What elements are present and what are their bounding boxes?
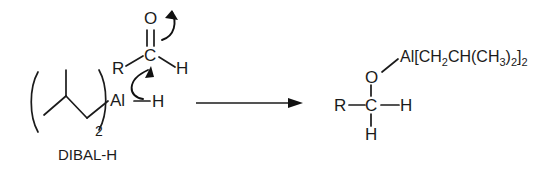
aldehyde-hydrogen-label: H [176, 59, 188, 78]
dibal-h-name-label: DIBAL-H [58, 146, 117, 163]
carbonyl-to-hydrogen-bond [159, 57, 175, 67]
product-hydrogen-right-label: H [400, 96, 412, 115]
aluminum-label: Al [110, 91, 125, 110]
pi-arrow-head [165, 10, 178, 20]
reaction-arrow-head [288, 98, 303, 108]
reaction-scheme: 2 Al H DIBAL-H O C R H [0, 0, 544, 175]
dibal-h-structure: 2 Al H DIBAL-H [31, 70, 164, 163]
formula-part-1: Al[CH [400, 48, 442, 65]
ch2-bond [66, 96, 87, 118]
product-structure: R C H H O Al[CH2CH(CH3)2]2 [334, 48, 528, 144]
product-r-group-label: R [334, 96, 346, 115]
aldehyde-r-group-label: R [112, 59, 124, 78]
hydride-to-carbonyl-carbon-arrow [132, 70, 148, 99]
left-parenthesis-glyph [31, 72, 38, 132]
methyl-bond-2 [44, 96, 66, 115]
product-aluminum-group-formula: Al[CH2CH(CH3)2]2 [400, 48, 528, 68]
repeat-subscript: 2 [95, 123, 103, 139]
carbonyl-carbon-label: C [144, 46, 156, 65]
carbonyl-oxygen-label: O [144, 9, 157, 28]
product-o-to-al-bond [382, 59, 398, 72]
hydride-hydrogen-label: H [152, 92, 164, 111]
hydride-arrow-head [145, 66, 154, 78]
formula-part-2: CH(CH [448, 48, 500, 65]
r-to-carbonyl-bond [126, 56, 143, 66]
product-hydrogen-bottom-label: H [365, 125, 377, 144]
product-oxygen-label: O [365, 68, 378, 87]
formula-sub-4: 2 [521, 56, 527, 68]
right-parenthesis-glyph [99, 70, 106, 130]
reaction-arrow [196, 98, 303, 108]
product-carbon-label: C [365, 96, 377, 115]
